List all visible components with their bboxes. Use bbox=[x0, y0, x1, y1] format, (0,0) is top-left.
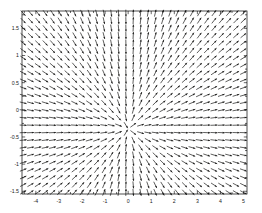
field-arrow-head bbox=[201, 132, 203, 134]
field-arrow-head bbox=[164, 140, 166, 142]
field-arrow-head bbox=[61, 132, 63, 134]
field-arrow-head bbox=[103, 52, 105, 54]
field-arrow-head bbox=[179, 132, 181, 134]
field-arrow-head bbox=[125, 97, 127, 99]
field-arrow-head bbox=[215, 101, 217, 103]
field-arrow-head bbox=[155, 47, 157, 49]
field-arrow-head bbox=[76, 146, 78, 148]
field-arrow-head bbox=[125, 166, 127, 168]
field-arrow-head bbox=[125, 181, 127, 183]
x-tick-label: 2 bbox=[173, 198, 176, 204]
field-arrow-head bbox=[215, 155, 217, 157]
field-arrow-head bbox=[244, 170, 246, 172]
field-arrow-head bbox=[193, 124, 195, 126]
x-tick-label: 4 bbox=[219, 198, 222, 204]
x-tick-label: -1 bbox=[103, 198, 108, 204]
field-arrow-head bbox=[120, 125, 122, 127]
field-arrow-head bbox=[46, 102, 48, 104]
x-tick-label: 0 bbox=[127, 198, 130, 204]
field-arrow-head bbox=[179, 124, 181, 126]
field-arrow-head bbox=[89, 22, 91, 24]
field-arrow-head bbox=[111, 74, 113, 76]
field-arrow-head bbox=[200, 101, 202, 103]
field-arrow-head bbox=[54, 124, 56, 126]
field-arrow-head bbox=[125, 82, 127, 84]
field-arrow-head bbox=[132, 54, 134, 56]
x-tick-label: 3 bbox=[196, 198, 199, 204]
field-arrow-head bbox=[89, 29, 91, 31]
field-arrow-head bbox=[230, 124, 232, 126]
field-arrow-head bbox=[132, 17, 134, 19]
field-arrow-head bbox=[61, 124, 63, 126]
field-arrow-head bbox=[140, 171, 142, 173]
tick-marks bbox=[22, 11, 247, 194]
field-arrow-head bbox=[120, 131, 122, 133]
field-arrow-head bbox=[132, 32, 134, 34]
field-arrow-head bbox=[147, 186, 149, 188]
field-arrow-head bbox=[32, 132, 34, 134]
field-arrow-head bbox=[125, 104, 127, 106]
field-arrow-head bbox=[244, 162, 246, 164]
field-arrow-head bbox=[32, 124, 34, 126]
field-arrow-head bbox=[24, 95, 26, 97]
x-tick-label: 5 bbox=[242, 198, 245, 204]
y-tick-label: 0 bbox=[16, 107, 19, 113]
field-arrow-head bbox=[47, 132, 49, 134]
field-arrow-head bbox=[54, 102, 56, 104]
field-arrow-head bbox=[186, 109, 188, 111]
field-arrow-head bbox=[230, 94, 232, 96]
x-tick-label: 1 bbox=[150, 198, 153, 204]
field-arrow-head bbox=[223, 132, 225, 134]
field-arrow-head bbox=[201, 124, 203, 126]
field-arrow-head bbox=[39, 95, 41, 97]
field-arrow-head bbox=[39, 154, 41, 156]
field-arrow-head bbox=[132, 47, 134, 49]
field-arrow-head bbox=[237, 132, 239, 134]
field-arrow-head bbox=[98, 117, 100, 119]
field-arrow-head bbox=[83, 124, 85, 126]
field-arrow-head bbox=[193, 109, 195, 111]
field-arrow-head bbox=[125, 52, 127, 54]
direction-field-plot: -4-3-2-10123451.510.50-0.5-1-1.5 bbox=[0, 0, 262, 213]
field-arrow-head bbox=[215, 124, 217, 126]
field-arrow-head bbox=[103, 59, 105, 61]
field-arrow-head bbox=[162, 32, 164, 34]
field-arrow-head bbox=[89, 14, 91, 16]
field-arrow-head bbox=[171, 124, 173, 126]
field-arrow-head bbox=[245, 132, 247, 134]
field-arrow-head bbox=[132, 62, 134, 64]
field-arrow-head bbox=[32, 161, 34, 163]
field-arrow-head bbox=[125, 89, 127, 91]
field-arrow-head bbox=[164, 116, 166, 118]
field-arrow-head bbox=[208, 124, 210, 126]
y-tick-label: 1 bbox=[16, 52, 19, 58]
field-arrow-head bbox=[125, 59, 127, 61]
vector-field-arrows bbox=[20, 10, 247, 196]
y-tick-label: -1 bbox=[14, 161, 19, 167]
field-arrow-head bbox=[125, 152, 127, 154]
field-arrow-head bbox=[178, 147, 180, 149]
axis-layer bbox=[22, 11, 247, 194]
field-arrow-head bbox=[237, 86, 239, 88]
field-arrow-head bbox=[215, 94, 217, 96]
field-arrow-head bbox=[170, 17, 172, 19]
field-arrow-head bbox=[230, 162, 232, 164]
field-arrow-head bbox=[237, 162, 239, 164]
field-arrow-head bbox=[61, 154, 63, 156]
field-arrow-head bbox=[96, 29, 98, 31]
field-arrow-head bbox=[125, 67, 127, 69]
field-arrow-head bbox=[237, 94, 239, 96]
field-arrow-head bbox=[47, 124, 49, 126]
field-arrow-head bbox=[193, 132, 195, 134]
field-arrow-head bbox=[162, 17, 164, 19]
field-arrow-head bbox=[215, 162, 217, 164]
field-arrow-head bbox=[111, 81, 113, 83]
field-arrow-head bbox=[125, 174, 127, 176]
field-arrow-head bbox=[222, 94, 224, 96]
field-arrow-head bbox=[32, 95, 34, 97]
field-arrow-head bbox=[118, 14, 120, 16]
field-arrow-head bbox=[222, 162, 224, 164]
field-arrow-head bbox=[68, 110, 70, 112]
field-arrow-head bbox=[147, 62, 149, 64]
field-arrow-head bbox=[69, 124, 71, 126]
